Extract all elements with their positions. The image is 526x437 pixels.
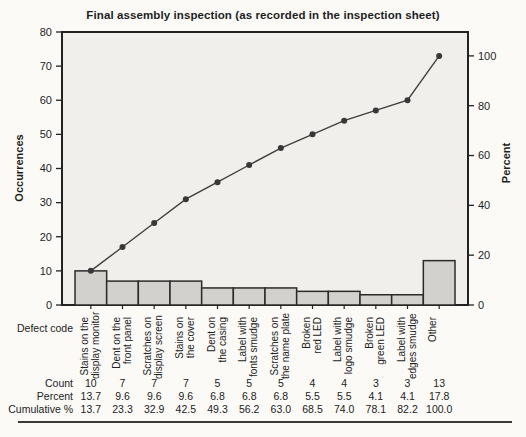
bar	[170, 281, 202, 305]
bar	[360, 295, 392, 305]
cumulative-marker	[183, 196, 189, 202]
left-tick-label: 0	[46, 299, 52, 311]
x-category-label: Other	[428, 317, 450, 379]
x-category-label: Brokenred LED	[302, 317, 324, 379]
bar	[265, 288, 297, 305]
bar	[297, 291, 329, 305]
cumulative-marker	[246, 162, 252, 168]
left-tick-label: 40	[40, 162, 52, 174]
left-tick-label: 80	[40, 26, 52, 38]
table-row-label-count: Count	[0, 377, 73, 389]
right-tick-label: 60	[478, 149, 490, 161]
x-category-label: Stains onthe cover	[175, 317, 197, 379]
table-cell: 17.8	[417, 390, 461, 402]
table-row-label-cumulative: Cumulative %	[0, 403, 73, 415]
right-tick-label: 20	[478, 249, 490, 261]
pareto-chart: 01020304050607080020406080100	[0, 0, 526, 330]
x-category-label: Brokengreen LED	[365, 317, 387, 379]
bar	[202, 288, 234, 305]
table-row-label-percent: Percent	[0, 390, 73, 402]
x-category-label: Stains on thedisplay monitor	[80, 317, 102, 379]
bar	[328, 291, 360, 305]
cumulative-marker	[405, 97, 411, 103]
x-category-label: Label withlogo smudge	[333, 317, 355, 379]
bar	[392, 295, 424, 305]
x-category-label: Label withfonts smudge	[238, 317, 260, 379]
cumulative-marker	[278, 145, 284, 151]
right-tick-label: 80	[478, 100, 490, 112]
right-tick-label: 0	[478, 299, 484, 311]
bar	[423, 261, 455, 305]
bar	[138, 281, 170, 305]
left-tick-label: 70	[40, 60, 52, 72]
table-cell: 100.0	[417, 403, 461, 415]
left-tick-label: 30	[40, 196, 52, 208]
cumulative-marker	[151, 220, 157, 226]
plot-area	[62, 32, 468, 305]
pareto-chart-page: Final assembly inspection (as recorded i…	[0, 0, 526, 437]
x-category-label: Scratches ondisplay screen	[143, 317, 165, 379]
left-tick-label: 50	[40, 128, 52, 140]
left-tick-label: 20	[40, 231, 52, 243]
x-category-label: Dent onthe casing	[207, 317, 229, 379]
x-category-label: Dent on thefront panel	[112, 317, 134, 379]
bottom-divider-rule	[18, 421, 512, 423]
x-axis-label: Defect code	[0, 322, 73, 334]
bar	[233, 288, 265, 305]
cumulative-marker	[120, 244, 126, 250]
left-tick-label: 10	[40, 265, 52, 277]
cumulative-marker	[436, 53, 442, 59]
bar	[75, 271, 107, 305]
cumulative-marker	[373, 107, 379, 113]
right-tick-label: 40	[478, 199, 490, 211]
table-cell: 13	[417, 377, 461, 389]
bar	[107, 281, 139, 305]
cumulative-marker	[215, 179, 221, 185]
cumulative-marker	[88, 268, 94, 274]
x-category-label: Label withedges smudge	[397, 317, 419, 379]
cumulative-marker	[310, 131, 316, 137]
left-tick-label: 60	[40, 94, 52, 106]
cumulative-marker	[341, 118, 347, 124]
right-tick-label: 100	[478, 50, 496, 62]
x-category-label: Scratches onthe name plate	[270, 317, 292, 379]
